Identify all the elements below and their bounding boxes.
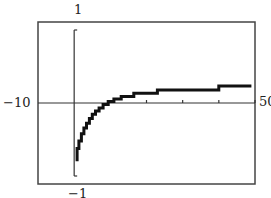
x-max-label: 50 [259, 95, 271, 108]
x-min-label: −10 [3, 96, 30, 109]
chart-canvas [0, 0, 271, 198]
step-curve [77, 86, 251, 161]
y-max-label: 1 [74, 3, 82, 16]
y-min-label: −1 [68, 187, 87, 198]
